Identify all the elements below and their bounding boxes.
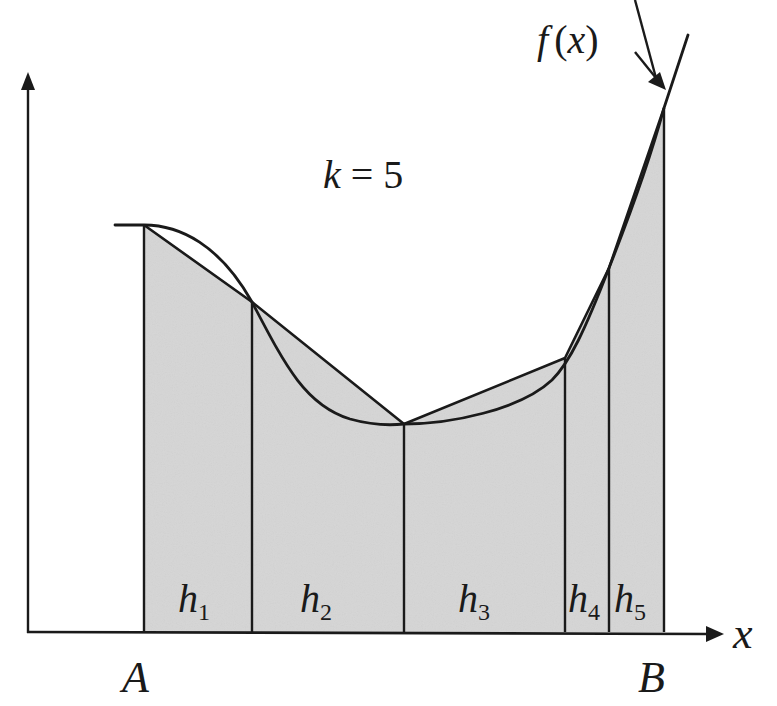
interval-end-label: B xyxy=(638,653,665,702)
trapezoid-rule-diagram: f(x) k = 5 h1 h2 h3 h4 h5 x A B xyxy=(0,0,777,706)
x-axis-label: x xyxy=(732,609,753,658)
x-axis-arrow-icon xyxy=(706,626,724,642)
interval-start-label: A xyxy=(119,653,150,702)
x-axis xyxy=(27,632,708,634)
k-label: k = 5 xyxy=(323,152,403,197)
function-label: f(x) xyxy=(537,17,599,62)
y-axis-arrow-icon xyxy=(21,72,35,90)
function-pointer-arrow-icon xyxy=(648,72,666,90)
